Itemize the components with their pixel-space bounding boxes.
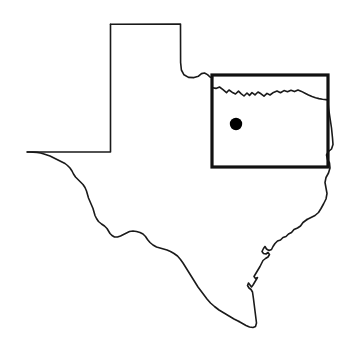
site-location-marker	[230, 118, 242, 130]
map-figure	[0, 0, 356, 358]
map-background	[0, 0, 356, 358]
texas-map-svg	[0, 0, 356, 358]
